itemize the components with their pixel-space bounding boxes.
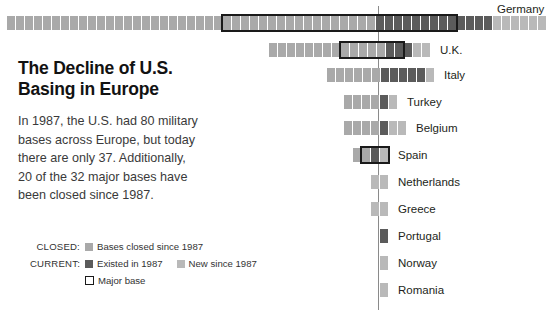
base-square-closed [79, 16, 87, 30]
base-square-closed [305, 43, 313, 57]
base-square-closed [277, 16, 285, 30]
country-label-belgium: Belgium [416, 121, 458, 135]
base-square-closed [97, 16, 105, 30]
base-square-new [426, 68, 434, 82]
base-square-existed [475, 16, 483, 30]
base-square-new [380, 283, 388, 297]
base-square-closed [287, 43, 295, 57]
base-square-existed [408, 68, 416, 82]
base-square-existed [371, 148, 379, 162]
base-square-existed [380, 121, 388, 135]
base-square-closed [16, 16, 24, 30]
base-square-closed [205, 16, 213, 30]
base-square-existed [385, 16, 393, 30]
base-square-new [380, 256, 388, 270]
base-square-existed [484, 16, 492, 30]
base-square-closed [133, 16, 141, 30]
base-square-existed [421, 16, 429, 30]
base-square-existed [390, 68, 398, 82]
base-square-closed [313, 16, 321, 30]
country-label-uk: U.K. [440, 43, 462, 57]
country-bar [7, 16, 546, 30]
legend-row-current: CURRENT: Existed in 1987 New since 1987 [18, 255, 308, 272]
base-square-existed [457, 16, 465, 30]
base-square-closed [295, 16, 303, 30]
base-square-new [380, 148, 388, 162]
infographic-root: GermanyU.K.ItalyTurkeyBelgiumSpainNether… [0, 0, 556, 318]
base-square-closed [34, 16, 42, 30]
text-block: The Decline of U.S. Basing in Europe In … [18, 58, 250, 205]
base-square-existed [386, 43, 394, 57]
base-square-closed [115, 16, 123, 30]
base-square-closed [160, 16, 168, 30]
base-square-closed [314, 43, 322, 57]
base-square-closed [363, 68, 371, 82]
base-square-closed [371, 95, 379, 109]
base-square-closed [124, 16, 132, 30]
base-square-existed [439, 16, 447, 30]
base-square-new [398, 121, 406, 135]
base-square-closed [353, 148, 361, 162]
base-square-closed [341, 43, 349, 57]
base-square-new [493, 16, 501, 30]
legend-swatch-major-base-icon [85, 276, 94, 285]
base-square-existed [403, 16, 411, 30]
base-square-closed [278, 43, 286, 57]
base-square-closed [359, 43, 367, 57]
body-line-3: there are only 37. Additionally, [18, 149, 250, 168]
bar-row [0, 202, 556, 226]
base-square-closed [336, 68, 344, 82]
base-square-new [538, 16, 546, 30]
base-square-closed [43, 16, 51, 30]
base-square-closed [268, 16, 276, 30]
body-line-4: 20 of the 32 major bases have [18, 168, 250, 187]
body-line-1: In 1987, the U.S. had 80 military [18, 112, 250, 131]
country-bar [344, 95, 397, 109]
base-square-closed [241, 16, 249, 30]
base-square-closed [106, 16, 114, 30]
base-square-new [380, 175, 388, 189]
base-square-existed [417, 68, 425, 82]
base-square-closed [250, 16, 258, 30]
base-square-existed [376, 16, 384, 30]
base-square-new [371, 175, 379, 189]
base-square-new [520, 16, 528, 30]
country-bar [353, 148, 388, 162]
country-bar [380, 256, 388, 270]
base-square-closed [362, 121, 370, 135]
base-square-closed [323, 43, 331, 57]
base-square-existed [399, 68, 407, 82]
base-square-closed [322, 16, 330, 30]
base-square-closed [187, 16, 195, 30]
base-square-closed [88, 16, 96, 30]
base-square-closed [344, 121, 352, 135]
base-square-existed [394, 16, 402, 30]
base-square-new [389, 121, 397, 135]
base-square-closed [350, 43, 358, 57]
base-square-existed [466, 16, 474, 30]
body-line-5: been closed since 1987. [18, 186, 250, 205]
base-square-closed [353, 121, 361, 135]
base-square-closed [70, 16, 78, 30]
base-square-new [422, 43, 430, 57]
legend-text-new: New since 1987 [189, 258, 257, 269]
base-square-closed [169, 16, 177, 30]
country-label-norway: Norway [398, 256, 437, 270]
base-square-closed [331, 16, 339, 30]
country-bar [327, 68, 434, 82]
base-square-closed [304, 16, 312, 30]
base-square-existed [430, 16, 438, 30]
legend-label-closed: CLOSED: [18, 241, 80, 252]
base-square-closed [232, 16, 240, 30]
country-label-portugal: Portugal [398, 229, 441, 243]
base-square-closed [286, 16, 294, 30]
base-square-new [389, 95, 397, 109]
legend-swatch-existed-icon [85, 260, 93, 268]
legend-text-major: Major base [98, 275, 145, 286]
country-label-romania: Romania [398, 283, 444, 297]
base-square-closed [61, 16, 69, 30]
country-label-turkey: Turkey [407, 95, 442, 109]
base-square-closed [358, 16, 366, 30]
base-square-closed [327, 68, 335, 82]
base-square-new [380, 202, 388, 216]
